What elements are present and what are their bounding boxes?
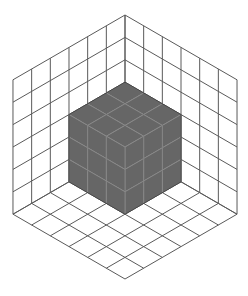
- cube-3x3x3: [69, 82, 181, 214]
- isometric-diagram: [0, 0, 248, 296]
